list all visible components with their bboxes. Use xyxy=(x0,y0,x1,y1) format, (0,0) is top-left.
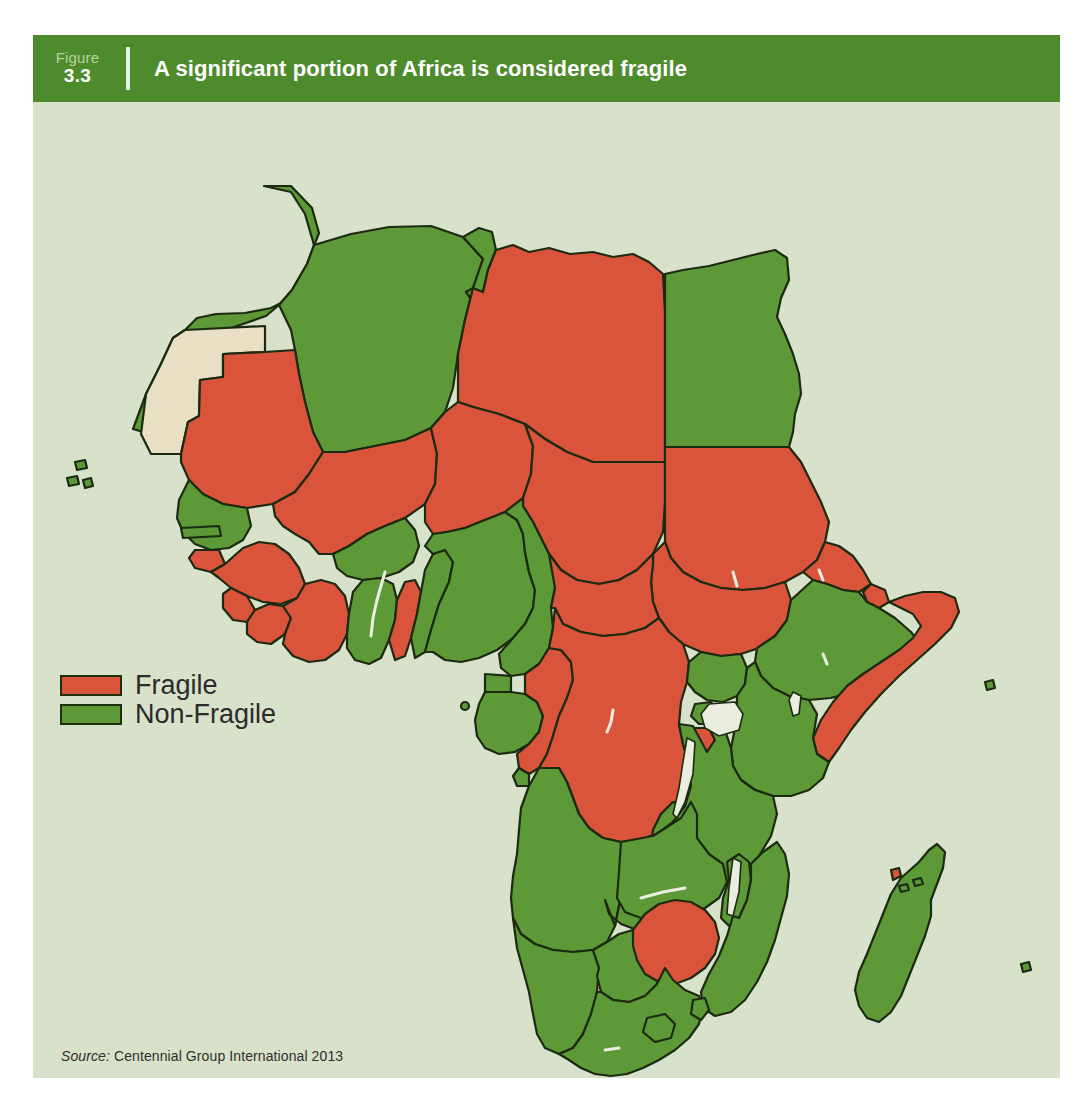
legend-label-non-fragile: Non-Fragile xyxy=(135,701,276,728)
source-lead: Source: xyxy=(61,1048,110,1064)
legend-item-non-fragile[interactable]: Non-Fragile xyxy=(60,701,276,728)
islands-cape-verde-b xyxy=(67,476,79,486)
source-note: Source: Centennial Group International 2… xyxy=(61,1048,343,1064)
map-legend: Fragile Non-Fragile xyxy=(60,672,276,730)
islands-cape-verde-a xyxy=(75,460,87,470)
africa-map: .cty{stroke:#1b2a10;stroke-width:2.2;str… xyxy=(33,102,1060,1078)
country-equatorial-guinea xyxy=(485,674,511,692)
figure-number: 3.3 xyxy=(64,65,91,87)
country-egypt xyxy=(665,250,801,447)
islands-seychelles xyxy=(985,680,995,690)
figure-title: A significant portion of Africa is consi… xyxy=(130,35,1060,102)
country-mauritius xyxy=(1021,962,1031,972)
island-sao-tome xyxy=(461,702,469,710)
legend-swatch-non-fragile xyxy=(60,704,122,725)
figure-header: Figure 3.3 A significant portion of Afri… xyxy=(33,35,1060,102)
islands-comoros-minor xyxy=(899,884,909,892)
africa-map-svg: .cty{stroke:#1b2a10;stroke-width:2.2;str… xyxy=(33,102,1060,1078)
country-gambia xyxy=(181,526,221,538)
river-orange xyxy=(605,1048,619,1050)
source-text: Centennial Group International 2013 xyxy=(110,1048,343,1064)
country-sudan xyxy=(665,447,829,590)
country-comoros xyxy=(891,868,901,880)
islands-comoros-minor-2 xyxy=(913,878,923,886)
islands-cape-verde-c xyxy=(83,478,93,488)
country-zimbabwe xyxy=(633,900,719,984)
figure-block: Figure 3.3 A significant portion of Afri… xyxy=(33,35,1060,1078)
legend-label-fragile: Fragile xyxy=(135,672,218,699)
country-swaziland xyxy=(691,998,709,1020)
map-country-shapes xyxy=(67,186,1031,1076)
figure-number-box: Figure 3.3 xyxy=(33,35,126,102)
figure-body: .cty{stroke:#1b2a10;stroke-width:2.2;str… xyxy=(33,102,1060,1078)
figure-label-word: Figure xyxy=(56,50,100,66)
legend-swatch-fragile xyxy=(60,675,122,696)
legend-item-fragile[interactable]: Fragile xyxy=(60,672,276,699)
